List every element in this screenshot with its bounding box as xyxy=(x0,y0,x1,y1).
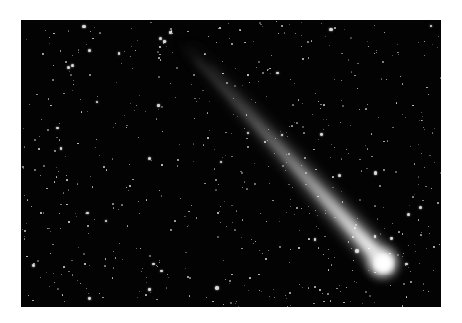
star xyxy=(433,270,434,271)
star xyxy=(249,277,251,279)
star xyxy=(322,293,324,295)
star xyxy=(261,291,262,292)
star xyxy=(151,160,152,161)
star xyxy=(437,202,438,203)
star xyxy=(341,80,342,81)
star xyxy=(86,288,87,289)
star xyxy=(294,122,295,123)
star xyxy=(222,73,223,74)
star xyxy=(196,217,197,218)
star xyxy=(84,263,86,265)
star xyxy=(159,262,160,263)
star xyxy=(336,288,337,289)
star xyxy=(64,301,65,302)
star xyxy=(259,250,260,251)
star xyxy=(402,256,403,257)
star xyxy=(308,238,310,240)
star xyxy=(432,44,433,45)
star xyxy=(22,166,23,167)
star xyxy=(350,301,351,302)
star xyxy=(270,73,271,74)
star xyxy=(342,201,344,203)
star xyxy=(82,25,85,28)
star xyxy=(318,247,320,249)
star xyxy=(118,52,121,55)
star xyxy=(301,46,302,47)
star xyxy=(77,280,78,281)
star xyxy=(430,25,433,28)
star xyxy=(244,128,245,129)
star xyxy=(50,105,52,107)
star xyxy=(220,206,221,207)
star xyxy=(177,165,178,166)
star xyxy=(422,200,424,202)
star xyxy=(34,169,36,171)
star xyxy=(246,138,248,140)
star xyxy=(323,104,324,105)
star xyxy=(269,296,270,297)
star xyxy=(99,32,101,34)
star xyxy=(203,144,204,145)
star xyxy=(387,140,389,142)
star xyxy=(132,68,133,69)
star xyxy=(290,199,291,200)
star xyxy=(384,32,385,33)
star xyxy=(315,169,317,171)
star xyxy=(301,165,302,166)
star xyxy=(88,233,89,234)
star xyxy=(86,212,88,214)
star xyxy=(58,171,59,172)
star xyxy=(303,132,305,134)
star xyxy=(40,175,41,176)
star xyxy=(332,187,333,188)
star xyxy=(302,126,303,127)
star xyxy=(284,32,286,34)
star xyxy=(113,267,114,268)
star xyxy=(340,122,341,123)
star xyxy=(45,30,46,31)
star xyxy=(365,108,367,110)
star xyxy=(60,228,61,229)
star xyxy=(172,33,174,35)
star xyxy=(185,252,187,254)
star xyxy=(313,149,314,150)
star xyxy=(247,74,249,76)
star xyxy=(314,286,315,287)
star xyxy=(368,270,369,271)
star xyxy=(166,41,167,42)
star xyxy=(258,274,259,275)
star xyxy=(374,302,375,303)
star xyxy=(105,258,107,260)
star xyxy=(78,49,80,51)
star xyxy=(225,279,226,280)
star xyxy=(254,163,255,164)
star xyxy=(159,46,160,47)
star xyxy=(87,111,88,112)
star xyxy=(56,137,57,138)
star xyxy=(396,102,398,104)
star xyxy=(97,96,99,98)
star xyxy=(137,297,138,298)
star xyxy=(269,68,270,69)
star xyxy=(329,28,332,31)
star xyxy=(191,205,192,206)
star xyxy=(425,186,426,187)
star xyxy=(236,210,237,211)
star xyxy=(289,126,290,127)
star xyxy=(129,164,130,165)
star xyxy=(328,269,330,271)
star xyxy=(41,119,42,120)
star xyxy=(301,22,302,23)
star xyxy=(223,304,224,305)
star xyxy=(156,118,158,120)
star xyxy=(414,244,415,245)
star xyxy=(325,213,326,214)
star xyxy=(179,144,180,145)
star xyxy=(438,36,440,38)
star xyxy=(159,260,160,261)
star xyxy=(405,117,407,119)
star xyxy=(331,144,332,145)
star xyxy=(341,100,342,101)
star xyxy=(113,207,114,208)
star xyxy=(235,68,236,69)
